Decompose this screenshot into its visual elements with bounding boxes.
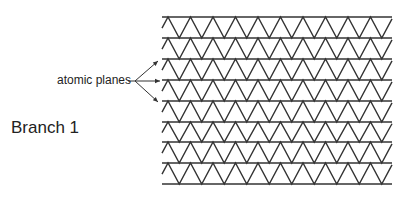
lattice-diagram — [0, 0, 405, 197]
zigzag-bond-row — [162, 38, 392, 59]
atomic-planes-label: atomic planes — [57, 73, 131, 87]
arrowhead-icon — [155, 79, 160, 83]
zigzag-bond-row — [162, 163, 392, 184]
branch-label: Branch 1 — [11, 118, 79, 138]
pointer-arrows — [128, 61, 160, 102]
zigzag-bond-row — [162, 59, 392, 80]
zigzag-bond-row — [162, 80, 392, 101]
zigzag-bond-row — [162, 101, 392, 122]
zigzag-bond-row — [162, 122, 392, 142]
zigzag-bond-row — [162, 17, 392, 38]
zigzag-bond-row — [162, 142, 392, 163]
